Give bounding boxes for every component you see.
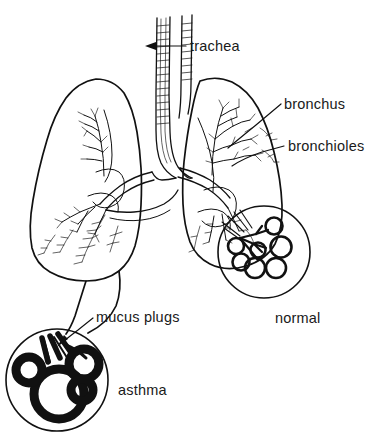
label-mucus-plugs: mucus plugs <box>96 309 180 325</box>
normal-alveoli-cluster <box>228 218 292 279</box>
right-main-bronchus-lower <box>178 177 228 208</box>
trachea-secondary-left <box>179 16 182 118</box>
lung-diagram-figure: trachea bronchus bronchioles mucus plugs… <box>0 0 382 440</box>
right-main-bronchus <box>180 168 230 198</box>
asthma-alveoli-cluster <box>16 349 99 419</box>
left-lung-bronchiole-hairs-upper <box>78 108 108 159</box>
left-lung-bronchial-tree-upper <box>84 115 104 176</box>
left-lung-bronchial-tree-middle <box>62 204 106 234</box>
tracheal-cartilage-rings <box>157 25 169 124</box>
carina-region <box>106 168 192 221</box>
left-lung-fissure <box>104 110 112 182</box>
normal-detail-circle <box>218 206 310 298</box>
left-lung-outline <box>30 79 141 281</box>
left-lung-bronchiole-hairs-middle <box>55 207 99 242</box>
label-bronchus: bronchus <box>284 96 345 112</box>
label-trachea: trachea <box>190 38 240 54</box>
label-bronchioles: bronchioles <box>288 138 364 154</box>
asthma-detail-circle <box>6 329 108 431</box>
alveolus-thickened <box>69 349 99 379</box>
alveolus-thickened <box>16 357 42 383</box>
trachea-arrowhead <box>145 42 156 50</box>
left-lung <box>30 79 154 281</box>
trachea-structure <box>156 15 192 178</box>
label-normal: normal <box>275 310 321 326</box>
diagram-canvas: trachea bronchus bronchioles mucus plugs… <box>0 0 382 440</box>
alveolus <box>228 238 244 254</box>
label-asthma: asthma <box>118 382 167 398</box>
alveolus <box>266 258 286 278</box>
